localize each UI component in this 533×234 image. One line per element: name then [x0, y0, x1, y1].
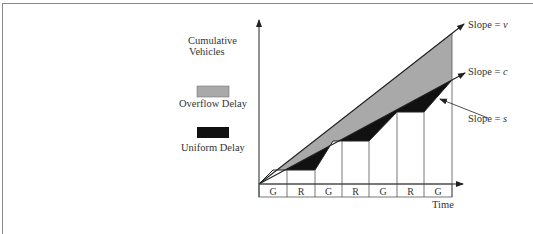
slope-s-label: Slope = s	[468, 113, 507, 124]
y-axis-label-line1: Cumulative	[188, 35, 237, 46]
overflow-delay-label: Overflow Delay	[179, 98, 248, 109]
phase-label: R	[407, 186, 414, 197]
phase-label: R	[352, 186, 359, 197]
x-axis-label: Time	[432, 199, 454, 210]
phase-label: R	[298, 186, 305, 197]
y-axis-label-line2: Vehicles	[189, 46, 225, 57]
phase-label: G	[434, 186, 441, 197]
phase-label: G	[379, 186, 386, 197]
uniform-delay-swatch	[197, 127, 229, 138]
phase-label: G	[325, 186, 332, 197]
uniform-delay-label: Uniform Delay	[181, 142, 246, 153]
overflow-delay-swatch	[197, 86, 229, 97]
slope-c-label: Slope = c	[468, 66, 508, 77]
slope-v-label: Slope = v	[468, 19, 508, 30]
phase-label: G	[269, 186, 276, 197]
